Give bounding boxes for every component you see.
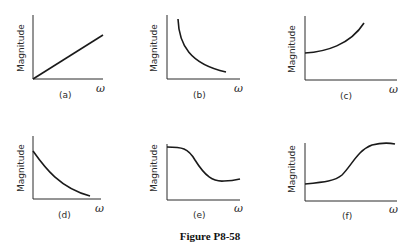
x-axis-label: ω — [234, 82, 243, 95]
panel-label: (e) — [193, 210, 206, 220]
y-axis-label: Magnitude — [16, 24, 26, 72]
panel-c: Magnitude (c) ω — [287, 16, 398, 101]
y-axis-label: Magnitude — [149, 144, 159, 192]
panel-f: Magnitude (f) ω — [287, 143, 398, 221]
curve — [33, 35, 103, 79]
curve — [33, 151, 90, 196]
x-axis-label: ω — [96, 82, 105, 95]
panel-b: Magnitude (b) ω — [149, 15, 243, 100]
figure-canvas: Magnitude (a) ω Magnitude (b) ω Magnitud… — [0, 0, 420, 247]
curve — [305, 143, 395, 184]
y-axis-label: Magnitude — [287, 145, 297, 193]
figure-caption: Figure P8-58 — [180, 230, 241, 242]
panel-label: (b) — [193, 90, 206, 100]
axes — [33, 136, 101, 199]
x-axis-label: ω — [234, 202, 243, 215]
curve — [305, 23, 364, 53]
x-axis-label: ω — [389, 83, 398, 96]
y-axis-label: Magnitude — [149, 24, 159, 72]
axes — [305, 143, 397, 201]
panel-e: Magnitude (e) ω — [149, 144, 243, 220]
y-axis-label: Magnitude — [16, 144, 26, 192]
panel-label: (f) — [342, 211, 352, 221]
panel-label: (c) — [340, 91, 352, 101]
x-axis-label: ω — [389, 203, 398, 216]
x-axis-label: ω — [95, 202, 104, 215]
axes — [305, 16, 397, 80]
axes — [33, 15, 103, 79]
panel-label: (a) — [59, 90, 72, 100]
panel-label: (d) — [58, 210, 71, 220]
panel-d: Magnitude (d) ω — [16, 136, 104, 220]
curve — [167, 147, 240, 181]
panel-a: Magnitude (a) ω — [16, 15, 105, 100]
y-axis-label: Magnitude — [287, 25, 297, 73]
curve — [178, 19, 226, 72]
